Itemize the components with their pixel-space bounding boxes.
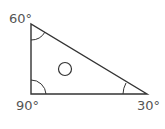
center-circle-icon [59,63,72,76]
angle-label-bottom-right: 30° [137,99,160,112]
angle-arc-90 [31,80,46,94]
angle-label-bottom-left: 90° [16,99,39,112]
triangle-shape [31,24,147,94]
angle-arc-60 [31,32,45,40]
angle-arc-30 [123,83,126,94]
angle-label-top-left: 60° [9,12,32,25]
